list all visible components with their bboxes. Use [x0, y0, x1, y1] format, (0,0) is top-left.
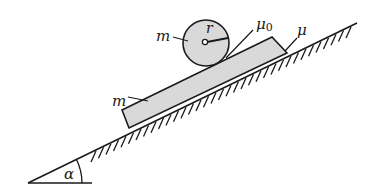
- mu0-label: μ0: [256, 15, 273, 34]
- block-mass-label: m: [112, 92, 126, 110]
- mu-leader: [285, 38, 297, 51]
- incline-diagram: α m r m μ0 μ: [0, 0, 379, 196]
- angle-label: α: [64, 165, 74, 183]
- diagram-stage: α m r m μ0 μ: [0, 0, 379, 196]
- cylinder-axis: [202, 39, 207, 44]
- mu-label: μ: [297, 21, 307, 39]
- angle-arc: [77, 160, 83, 184]
- cylinder-mass-label: m: [156, 27, 170, 45]
